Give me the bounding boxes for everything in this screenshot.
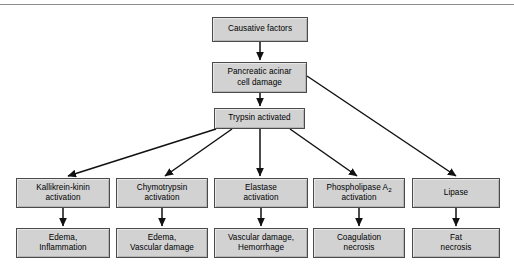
node-label: Lipase — [442, 188, 470, 199]
node-label: Edema, Inflammation — [37, 233, 88, 254]
acinar-to-lipase — [307, 76, 456, 176]
node-label: Fat necrosis — [439, 233, 474, 254]
pancreatitis-pathophysiology-flowchart: Causative factors Pancreatic acinar cell… — [0, 0, 514, 273]
trypsin-to-chymotrypsin — [165, 129, 232, 176]
node-label: Pancreatic acinar cell damage — [225, 67, 293, 88]
node-label: Trypsin activated — [226, 113, 292, 124]
trypsin-to-phospholipase — [290, 129, 357, 176]
node-label: Edema, Vascular damage — [128, 233, 196, 254]
node-label: Phospholipase A2activation — [324, 183, 393, 204]
node-label: Kallikrein-kinin activation — [34, 183, 92, 204]
node-lipase: Lipase — [412, 178, 500, 208]
node-trypsin-activated: Trypsin activated — [214, 108, 305, 129]
node-pancreatic-acinar-cell-damage: Pancreatic acinar cell damage — [212, 62, 307, 93]
node-elastase-activation: Elastase activation — [214, 178, 308, 208]
node-label: Vascular damage, Hemorrhage — [226, 233, 296, 254]
node-label: Elastase activation — [241, 183, 280, 204]
node-kallikrein-kinin-activation: Kallikrein-kinin activation — [16, 178, 110, 208]
trypsin-to-kallikrein — [68, 129, 216, 176]
node-edema-vascular-damage: Edema, Vascular damage — [116, 228, 208, 258]
node-label: Coagulation necrosis — [335, 233, 383, 254]
node-label: Causative factors — [226, 24, 294, 35]
node-causative-factors: Causative factors — [212, 17, 308, 42]
node-label: Chymotrypsin activation — [135, 183, 190, 204]
top-divider-rule — [0, 4, 514, 5]
node-phospholipase-a2-activation: Phospholipase A2activation — [313, 178, 405, 208]
node-fat-necrosis: Fat necrosis — [412, 228, 500, 258]
node-edema-inflammation: Edema, Inflammation — [16, 228, 110, 258]
node-chymotrypsin-activation: Chymotrypsin activation — [116, 178, 208, 208]
node-coagulation-necrosis: Coagulation necrosis — [313, 228, 405, 258]
node-vascular-damage-hemorrhage: Vascular damage, Hemorrhage — [214, 228, 308, 258]
